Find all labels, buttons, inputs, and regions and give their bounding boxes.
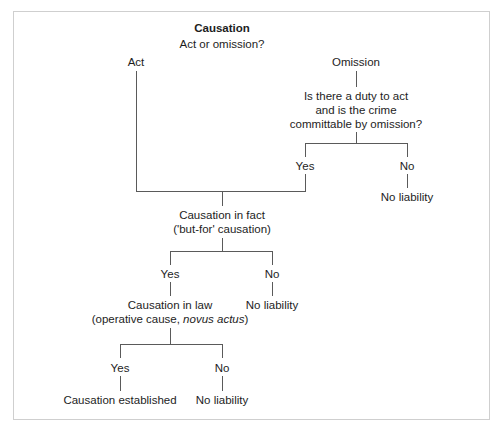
causation-in-law-line1: Causation in law (128, 298, 212, 312)
causation-in-law-line2: (operative cause, novus actus) (92, 312, 249, 326)
law-yes-connector (120, 376, 121, 391)
act-node: Act (128, 55, 145, 69)
law-yes: Yes (111, 361, 130, 375)
join-stem (222, 191, 223, 206)
duty-no-result: No liability (381, 190, 433, 204)
causation-in-fact-line1: Causation in fact (179, 208, 265, 222)
duty-no-connector (407, 174, 408, 188)
law-no-result: No liability (196, 393, 248, 407)
novus-actus-text: novus actus (183, 313, 244, 325)
law-stem (170, 328, 171, 344)
law-line2-prefix: (operative cause, (92, 313, 183, 325)
law-split (120, 344, 223, 345)
fact-yes: Yes (161, 267, 180, 281)
causation-established-result: Causation established (63, 393, 176, 407)
act-omission-join (136, 191, 306, 192)
duty-yes-connector (305, 174, 306, 191)
act-connector (136, 71, 137, 191)
omission-node: Omission (332, 55, 380, 69)
fact-split (170, 251, 273, 252)
duty-yes: Yes (296, 159, 315, 173)
law-no: No (215, 361, 230, 375)
diagram-title: Causation (194, 21, 250, 35)
duty-question-line1: Is there a duty to act (304, 89, 408, 103)
duty-question-line3: committable by omission? (290, 117, 422, 131)
duty-yes-branch (305, 143, 306, 157)
duty-question-line2: and is the crime (315, 103, 396, 117)
fact-no-branch (272, 251, 273, 265)
fact-stem (222, 238, 223, 251)
law-no-connector (222, 376, 223, 391)
law-yes-branch (120, 344, 121, 358)
duty-split (305, 143, 408, 144)
causation-in-fact-line2: ('but-for' causation) (173, 222, 271, 236)
fact-no-connector (272, 282, 273, 296)
duty-stem (356, 132, 357, 143)
fact-yes-connector (170, 282, 171, 296)
law-no-branch (222, 344, 223, 358)
duty-no: No (400, 159, 415, 173)
fact-no: No (265, 267, 280, 281)
duty-no-branch (407, 143, 408, 157)
law-line2-suffix: ) (244, 313, 248, 325)
omission-connector (356, 71, 357, 87)
root-question: Act or omission? (179, 37, 264, 51)
fact-no-result: No liability (246, 298, 298, 312)
fact-yes-branch (170, 251, 171, 265)
